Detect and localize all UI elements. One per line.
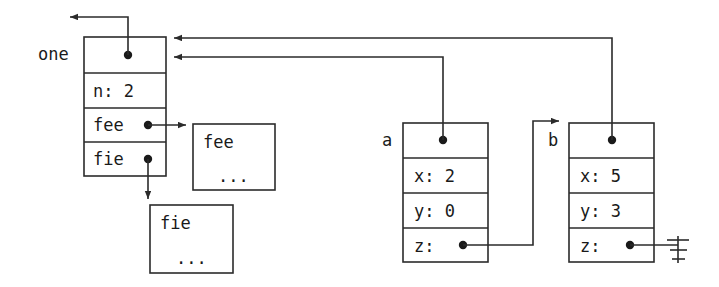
fee-blob-title: fee xyxy=(203,134,234,151)
fie-blob-title: fie xyxy=(160,215,191,232)
one-field-fie: fie xyxy=(93,151,124,168)
one-field-fee: fee xyxy=(93,117,124,134)
a-field-y: y: 0 xyxy=(414,203,455,220)
fie-blob-body: ... xyxy=(176,250,207,267)
object-label-b: b xyxy=(548,132,558,149)
one-field-n: n: 2 xyxy=(93,83,134,100)
object-reference-diagram: one a b n: 2 fee fie x: 2 y: 0 z: x: 5 y… xyxy=(0,0,719,287)
a-field-x: x: 2 xyxy=(414,168,455,185)
a-field-z: z: xyxy=(414,238,434,255)
fee-blob-body: ... xyxy=(218,168,249,185)
object-label-one: one xyxy=(38,46,69,63)
b-field-x: x: 5 xyxy=(580,168,621,185)
diagram-canvas xyxy=(0,0,719,287)
object-label-a: a xyxy=(382,132,392,149)
b-field-z: z: xyxy=(580,238,600,255)
b-field-y: y: 3 xyxy=(580,203,621,220)
